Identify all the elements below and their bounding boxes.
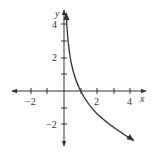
y-tick-label-4: 4: [52, 19, 57, 30]
curve-neg-2-ln-x: [66, 13, 133, 141]
y-tick-label-2: 2: [52, 52, 57, 63]
y-tick-label-neg2: −2: [46, 119, 57, 130]
y-axis-label: y: [54, 8, 60, 19]
chart: −2 2 4 4 2 −2 x y: [0, 0, 160, 153]
x-tick-label-4: 4: [127, 96, 132, 107]
x-axis-label: x: [139, 93, 145, 104]
x-tick-label-2: 2: [94, 96, 99, 107]
x-tick-label-neg2: −2: [25, 96, 36, 107]
